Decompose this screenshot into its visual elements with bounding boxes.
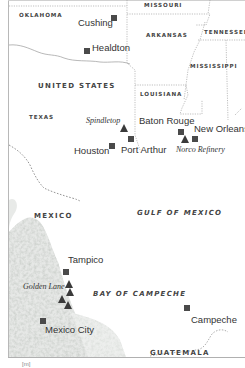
city-label-port-arthur: Port Arthur — [121, 145, 166, 155]
city-label-healdton: Healdton — [92, 43, 130, 53]
region-label-missouri: MISSOURI — [144, 3, 182, 9]
city-marker-mexico-city — [40, 318, 46, 324]
oil-well-icon-spindletop — [120, 124, 128, 132]
country-label-united-states: UNITED STATES — [38, 83, 116, 90]
city-marker-new-orleans — [192, 136, 198, 142]
region-label-louisiana: LOUISIANA — [140, 92, 182, 98]
oil-well-icon-golden-lane-2 — [66, 288, 74, 296]
oil-site-label-golden-lane: Golden Lane — [23, 283, 65, 291]
city-marker-healdton — [84, 48, 90, 54]
city-label-new-orleans: New Orleans — [194, 124, 245, 134]
city-marker-campeche — [184, 305, 190, 311]
water-label-gulf-of-mexico: GULF OF MEXICO — [137, 210, 222, 217]
region-label-texas: TEXAS — [29, 115, 54, 121]
city-marker-tampico — [63, 269, 69, 275]
country-label-mexico: MEXICO — [34, 213, 73, 220]
region-label-arkansas: ARKANSAS — [146, 33, 188, 39]
city-marker-port-arthur — [128, 136, 134, 142]
oil-well-icon-golden-lane-4 — [64, 301, 72, 309]
region-label-mississippi: MISSISSIPPI — [190, 64, 238, 70]
city-label-houston: Houston — [74, 146, 109, 156]
city-label-campeche: Campeche — [191, 315, 237, 325]
country-label-guatemala: GUATEMALA — [150, 350, 210, 357]
map-caption: [m] — [22, 361, 30, 367]
oil-site-label-norco-refinery: Norco Refinery — [176, 146, 225, 154]
region-label-oklahoma: OKLAHOMA — [19, 13, 63, 19]
oil-site-label-spindletop: Spindletop — [86, 117, 120, 125]
city-label-cushing: Cushing — [78, 18, 113, 28]
city-label-mexico-city: Mexico City — [45, 325, 94, 335]
city-marker-houston — [109, 143, 115, 149]
oil-well-icon-golden-lane-1 — [65, 280, 73, 288]
city-label-baton-rouge: Baton Rouge — [139, 116, 194, 126]
oil-well-icon-norco — [181, 135, 189, 143]
rio-grande — [9, 145, 80, 201]
city-label-tampico: Tampico — [68, 255, 103, 265]
city-marker-cushing — [111, 15, 117, 21]
map-canvas — [0, 0, 245, 368]
water-label-bay-of-campeche: BAY OF CAMPECHE — [93, 291, 186, 298]
region-label-tennessee: TENNESSEE — [204, 30, 245, 36]
